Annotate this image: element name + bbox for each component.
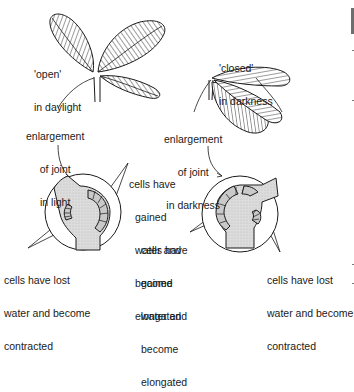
right-cells-gained-water-label: cells have gained water and become elong… [141,223,188,392]
left-cells-lost-water-label: cells have lost water and become contrac… [4,253,90,363]
joint-in-light-label: enlargement of joint in light [26,109,84,219]
right-cells-lost-water-label: cells have lost water and become contrac… [267,253,353,363]
closed-state-label: 'closed' in darkness [219,41,273,118]
